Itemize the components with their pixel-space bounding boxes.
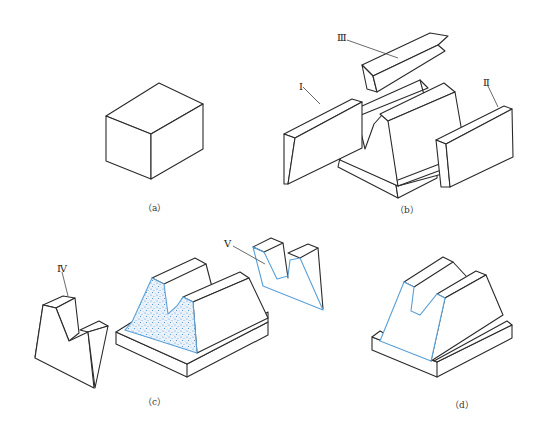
panel-a-prism [106,83,203,179]
panel-b-piece-III [347,33,448,92]
label-piece-III: Ⅲ [337,32,347,43]
panel-c-piece-IV [35,272,108,388]
panel-c-main-body [116,258,268,377]
label-piece-IV: Ⅳ [57,263,68,274]
caption-a: （a） [143,203,166,213]
caption-c: （c） [143,397,166,407]
caption-b: （b） [395,205,419,215]
panel-d-v-block [372,257,512,377]
caption-d: （d） [450,400,474,410]
label-piece-I: Ⅰ [299,81,303,92]
label-piece-II: Ⅱ [483,77,490,88]
label-piece-V: Ⅴ [223,238,232,249]
diagram-canvas: Ⅰ Ⅱ Ⅲ Ⅳ Ⅴ （a） （b） （c） （d） [0,0,541,432]
